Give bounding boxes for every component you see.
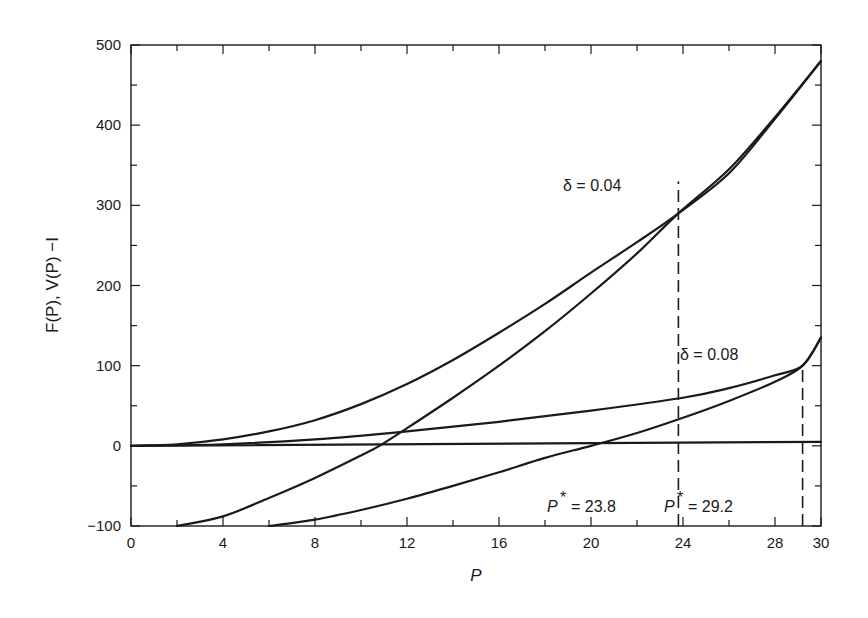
annotation-delta-008: δ = 0.08 [680, 346, 738, 363]
svg-text:= 29.2: = 29.2 [688, 498, 733, 515]
y-tick-label: 300 [96, 196, 121, 213]
annotation-pstar-29-2: P * = 29.2 [664, 489, 733, 515]
x-tick-label: 8 [311, 534, 319, 551]
plot-frame [131, 45, 821, 526]
x-tick-label: 12 [399, 534, 416, 551]
y-tick-label: 100 [96, 357, 121, 374]
x-tick-label: 16 [491, 534, 508, 551]
y-tick-label: −100 [87, 517, 121, 534]
svg-text:= 23.8: = 23.8 [571, 498, 616, 515]
x-tick-label: 30 [813, 534, 830, 551]
curves [131, 61, 821, 526]
y-axis-title: F(P), V(P) −I [43, 237, 62, 333]
svg-text:*: * [560, 489, 566, 506]
y-tick-labels: −1000100200300400500 [87, 36, 121, 534]
annotation-pstar-23-8: P * = 23.8 [547, 489, 616, 515]
x-tick-label: 24 [675, 534, 692, 551]
x-tick-label: 0 [127, 534, 135, 551]
y-tick-label: 0 [113, 437, 121, 454]
annotation-delta-004: δ = 0.04 [563, 177, 621, 194]
y-tick-label: 200 [96, 277, 121, 294]
axis-ticks [131, 45, 821, 526]
y-tick-label: 400 [96, 116, 121, 133]
curve-f-p-0-04 [131, 61, 821, 446]
curve-v-p-i-0-08 [269, 338, 821, 526]
y-tick-label: 500 [96, 36, 121, 53]
curve-v-p-i-0-04 [177, 61, 821, 526]
x-tick-label: 20 [583, 534, 600, 551]
x-axis-title: P [470, 566, 482, 585]
x-tick-label: 4 [219, 534, 227, 551]
chart: 048121620242830 −1000100200300400500 P F… [0, 0, 868, 618]
svg-text:*: * [677, 489, 683, 506]
svg-text:P: P [547, 498, 558, 515]
x-tick-labels: 048121620242830 [127, 534, 830, 551]
x-tick-label: 28 [767, 534, 784, 551]
svg-text:P: P [664, 498, 675, 515]
